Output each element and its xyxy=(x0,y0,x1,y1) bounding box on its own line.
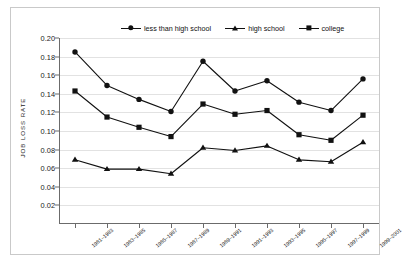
x-tick-label: 1997–1999 xyxy=(346,227,370,249)
x-tick-mark xyxy=(139,224,140,228)
legend-item-label: college xyxy=(322,24,345,33)
data-point-circle[interactable] xyxy=(296,99,301,104)
square-marker-icon xyxy=(299,24,319,33)
data-point-circle[interactable] xyxy=(232,88,237,93)
y-tick-label: 0.20 xyxy=(41,34,55,43)
legend-item-label: high school xyxy=(248,24,284,33)
data-point-circle[interactable] xyxy=(200,59,205,64)
y-tick-label: 0.08 xyxy=(41,145,55,154)
series-circle xyxy=(72,49,365,114)
x-tick-mark xyxy=(363,224,364,228)
data-point-circle[interactable] xyxy=(168,109,173,114)
data-point-circle[interactable] xyxy=(104,83,109,88)
x-tick-label: 1983–1985 xyxy=(122,227,146,249)
data-point-circle[interactable] xyxy=(328,108,333,113)
x-tick-label: 1999–2001 xyxy=(378,227,402,249)
x-tick-label: 1989–1991 xyxy=(218,227,242,249)
triangle-marker-icon xyxy=(225,24,245,33)
data-point-circle[interactable] xyxy=(360,76,365,81)
x-tick-mark xyxy=(235,224,236,228)
data-point-square[interactable] xyxy=(232,112,237,117)
x-tick-mark xyxy=(203,224,204,228)
y-tick-label: 0.06 xyxy=(41,164,55,173)
x-tick-mark xyxy=(267,224,268,228)
x-tick-mark xyxy=(107,224,108,228)
x-tick-label: 1991–1993 xyxy=(250,227,274,249)
data-point-circle[interactable] xyxy=(264,78,269,83)
data-point-triangle[interactable] xyxy=(360,139,366,144)
plot-area: 0.020.040.060.080.100.120.140.160.180.20… xyxy=(59,38,379,224)
data-point-square[interactable] xyxy=(136,125,141,130)
x-tick-mark xyxy=(299,224,300,228)
series-line xyxy=(75,142,363,174)
y-tick-label: 0.16 xyxy=(41,71,55,80)
series-triangle xyxy=(72,139,366,176)
data-point-square[interactable] xyxy=(328,138,333,143)
series-square xyxy=(72,88,365,142)
data-point-square[interactable] xyxy=(264,108,269,113)
x-tick-label: 1981–1983 xyxy=(90,227,114,249)
series-line xyxy=(75,52,363,112)
data-point-triangle[interactable] xyxy=(200,145,206,150)
data-point-triangle[interactable] xyxy=(72,157,78,162)
data-point-square[interactable] xyxy=(104,114,109,119)
series-layer xyxy=(59,38,379,224)
data-point-square[interactable] xyxy=(200,101,205,106)
x-tick-label: 1993–1995 xyxy=(282,227,306,249)
y-tick-label: 0.10 xyxy=(41,127,55,136)
y-tick-labels: 0.020.040.060.080.100.120.140.160.180.20 xyxy=(25,38,55,224)
legend-item-circle[interactable]: less than high school xyxy=(121,24,211,33)
data-point-triangle[interactable] xyxy=(136,166,142,171)
x-tick-label: 1995–1997 xyxy=(314,227,338,249)
x-tick-mark xyxy=(331,224,332,228)
x-tick-mark xyxy=(171,224,172,228)
chart-legend: less than high schoolhigh schoolcollege xyxy=(121,21,383,35)
data-point-square[interactable] xyxy=(296,132,301,137)
circle-marker-icon xyxy=(121,24,141,33)
x-tick-label: 1985–1987 xyxy=(154,227,178,249)
data-point-circle[interactable] xyxy=(136,97,141,102)
x-tick-label: 1987–1989 xyxy=(186,227,210,249)
legend-item-square[interactable]: college xyxy=(299,24,345,33)
legend-marker-glyph xyxy=(128,25,133,30)
data-point-square[interactable] xyxy=(168,134,173,139)
x-tick-mark xyxy=(75,224,76,228)
data-point-triangle[interactable] xyxy=(264,143,270,148)
chart-frame: less than high schoolhigh schoolcollege … xyxy=(10,7,380,255)
legend-item-triangle[interactable]: high school xyxy=(225,24,284,33)
series-line xyxy=(75,91,363,140)
y-tick-label: 0.04 xyxy=(41,182,55,191)
y-tick-label: 0.02 xyxy=(41,201,55,210)
data-point-square[interactable] xyxy=(72,88,77,93)
data-point-circle[interactable] xyxy=(72,49,77,54)
y-tick-label: 0.18 xyxy=(41,52,55,61)
y-tick-label: 0.14 xyxy=(41,89,55,98)
data-point-square[interactable] xyxy=(360,113,365,118)
legend-marker-glyph xyxy=(232,26,238,31)
y-tick-label: 0.12 xyxy=(41,108,55,117)
legend-marker-glyph xyxy=(306,25,311,30)
legend-item-label: less than high school xyxy=(144,24,211,33)
